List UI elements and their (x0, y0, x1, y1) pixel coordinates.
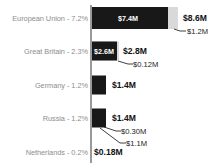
total-value-label-netherlands: $0.18M (94, 147, 123, 157)
category-label-russia: Russia - 1.2% (43, 114, 88, 123)
bar-primary-germany (92, 76, 106, 95)
category-label-germany: Germany - 1.2% (35, 81, 88, 90)
category-label-great-britain: Great Britain - 2.3% (24, 47, 88, 56)
bar-value-label-great-britain: $2.6M (94, 47, 114, 56)
category-label-european-union: European Union - 7.2% (12, 14, 88, 23)
total-value-label-russia: $1.4M (112, 113, 136, 123)
callout-value-russia-1: $0.30M (121, 127, 146, 136)
total-value-label-germany: $1.4M (112, 80, 136, 90)
bar-value-label-european-union: $7.4M (118, 14, 138, 23)
callout-value-european-union-1: $1.2M (187, 27, 208, 36)
category-label-netherlands: Netherlands - 0.2% (26, 148, 88, 157)
bar-primary-russia (92, 109, 106, 128)
total-value-label-great-britain: $2.8M (123, 46, 147, 56)
callout-value-great-britain-1: $0.12M (133, 60, 158, 69)
total-value-label-european-union: $8.6M (183, 13, 207, 23)
horizontal-bar-chart: European Union - 7.2% $7.4M $8.6M $1.2M … (0, 0, 216, 167)
callout-value-russia-2: $1.1M (126, 139, 147, 148)
